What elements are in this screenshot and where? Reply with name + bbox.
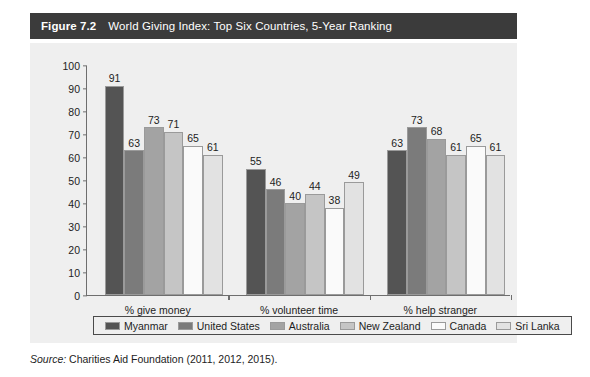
plot-area: 1009080706050403020100916373716561% give… — [86, 66, 510, 296]
bar-value-label: 46 — [270, 177, 282, 188]
x-axis-label: % volunteer time — [260, 304, 338, 316]
legend-swatch — [431, 322, 446, 330]
figure-number: Figure 7.2 — [41, 20, 96, 32]
y-axis-tick-mark — [83, 111, 88, 112]
bar-value-label: 61 — [450, 142, 462, 153]
legend-label: Canada — [450, 320, 487, 332]
bar[interactable] — [144, 127, 164, 295]
bar-value-label: 71 — [168, 119, 180, 130]
figure-header-bar: Figure 7.2 World Giving Index: Top Six C… — [30, 13, 517, 39]
figure-title: World Giving Index: Top Six Countries, 5… — [108, 20, 392, 32]
legend-swatch — [496, 322, 511, 330]
bar-value-label: 63 — [391, 138, 403, 149]
bar[interactable] — [446, 155, 466, 295]
bar-wrap: 65 — [466, 66, 486, 295]
bar-value-label: 73 — [411, 115, 423, 126]
y-axis-tick-mark — [83, 295, 88, 296]
bar[interactable] — [124, 150, 144, 295]
bar[interactable] — [344, 182, 364, 295]
bar-wrap: 63 — [124, 66, 144, 295]
chart-panel: 1009080706050403020100916373716561% give… — [30, 43, 517, 343]
legend-label: Sri Lanka — [515, 320, 559, 332]
bar[interactable] — [387, 150, 407, 295]
bar-value-label: 63 — [128, 138, 140, 149]
bar-wrap: 61 — [486, 66, 506, 295]
bar-wrap: 40 — [285, 66, 305, 295]
y-axis-tick-mark — [83, 180, 88, 181]
y-axis-tick-mark — [83, 88, 88, 89]
bar[interactable] — [246, 169, 266, 296]
legend-item[interactable]: New Zealand — [340, 320, 421, 332]
bar-value-label: 49 — [348, 170, 360, 181]
bar-value-label: 91 — [109, 73, 121, 84]
bar[interactable] — [486, 155, 506, 295]
y-axis-tick-mark — [83, 157, 88, 158]
source-note: Source: Charities Aid Foundation (2011, … — [30, 353, 277, 365]
x-axis-tick-mark — [511, 295, 512, 300]
bar-wrap: 91 — [105, 66, 125, 295]
chart-legend: MyanmarUnited StatesAustraliaNew Zealand… — [93, 316, 572, 335]
source-text: Charities Aid Foundation (2011, 2012, 20… — [69, 353, 277, 365]
bar-value-label: 61 — [490, 142, 502, 153]
bar-value-label: 61 — [207, 142, 219, 153]
bar-wrap: 68 — [427, 66, 447, 295]
bar-wrap: 65 — [183, 66, 203, 295]
y-axis-tick-mark — [83, 226, 88, 227]
bar-wrap: 55 — [246, 66, 266, 295]
bar-wrap: 71 — [164, 66, 184, 295]
bar-value-label: 40 — [289, 191, 301, 202]
source-label: Source: — [30, 353, 66, 365]
legend-label: Australia — [289, 320, 330, 332]
legend-item[interactable]: Australia — [270, 320, 330, 332]
legend-item[interactable]: Myanmar — [105, 320, 168, 332]
bar-value-label: 44 — [309, 181, 321, 192]
x-axis-tick-mark — [228, 295, 229, 300]
legend-label: United States — [197, 320, 260, 332]
bar[interactable] — [105, 86, 125, 295]
x-axis-tick-mark — [370, 295, 371, 300]
legend-item[interactable]: Sri Lanka — [496, 320, 559, 332]
legend-label: New Zealand — [359, 320, 421, 332]
bar-wrap: 44 — [305, 66, 325, 295]
x-axis-label: % help stranger — [404, 304, 478, 316]
bar[interactable] — [427, 139, 447, 295]
bar[interactable] — [407, 127, 427, 295]
bar-wrap: 73 — [407, 66, 427, 295]
bar-group: 637368616561 — [387, 66, 505, 295]
y-axis-tick-mark — [83, 249, 88, 250]
legend-label: Myanmar — [124, 320, 168, 332]
bar[interactable] — [164, 132, 184, 295]
bar-wrap: 73 — [144, 66, 164, 295]
bar-value-label: 38 — [329, 195, 341, 206]
bar-wrap: 61 — [203, 66, 223, 295]
bar[interactable] — [325, 208, 345, 295]
bar-wrap: 61 — [446, 66, 466, 295]
legend-swatch — [178, 322, 193, 330]
y-axis-tick-mark — [83, 134, 88, 135]
bar-wrap: 38 — [325, 66, 345, 295]
legend-swatch — [340, 322, 355, 330]
bar-wrap: 49 — [344, 66, 364, 295]
bar-group: 554640443849 — [246, 66, 364, 295]
bar[interactable] — [266, 189, 286, 295]
legend-swatch — [105, 322, 120, 330]
y-axis-tick-mark — [83, 203, 88, 204]
bar-value-label: 55 — [250, 156, 262, 167]
x-axis-label: % give money — [125, 304, 191, 316]
y-axis-tick-mark — [83, 65, 88, 66]
y-axis-tick-mark — [83, 272, 88, 273]
bar-value-label: 65 — [470, 133, 482, 144]
bar[interactable] — [203, 155, 223, 295]
legend-item[interactable]: Canada — [431, 320, 487, 332]
bar-wrap: 63 — [387, 66, 407, 295]
bar[interactable] — [285, 203, 305, 295]
bar-group: 916373716561 — [105, 66, 223, 295]
bar-value-label: 68 — [431, 126, 443, 137]
bar-value-label: 65 — [187, 133, 199, 144]
bar[interactable] — [305, 194, 325, 295]
bar[interactable] — [466, 146, 486, 296]
bar-value-label: 73 — [148, 115, 160, 126]
bar[interactable] — [183, 146, 203, 296]
legend-swatch — [270, 322, 285, 330]
legend-item[interactable]: United States — [178, 320, 260, 332]
